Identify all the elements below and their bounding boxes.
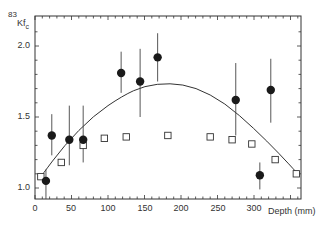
filled-circle-marker <box>42 177 50 185</box>
open-square-marker <box>123 134 129 140</box>
open-square-marker <box>58 159 64 165</box>
figure-number: 83 <box>8 11 17 19</box>
open-square-marker <box>293 171 299 177</box>
y-tick-label-2.0: 2.0 <box>6 41 30 50</box>
circle-markers <box>42 53 275 185</box>
open-square-marker <box>249 141 255 147</box>
open-square-marker <box>165 132 171 138</box>
x-tick-label-200: 200 <box>169 204 193 213</box>
fit-curve <box>41 84 298 177</box>
x-tick-label-300: 300 <box>242 204 266 213</box>
filled-circle-marker <box>256 171 264 179</box>
filled-circle-marker <box>153 53 161 61</box>
filled-circle-marker <box>117 69 125 77</box>
filled-circle-marker <box>65 136 73 144</box>
y-tick-label-1.5: 1.5 <box>6 112 30 121</box>
chart-plot <box>0 0 327 226</box>
x-tick-label-50: 50 <box>59 204 83 213</box>
open-square-marker <box>101 135 107 141</box>
open-square-marker <box>229 137 235 143</box>
x-tick-label-100: 100 <box>96 204 120 213</box>
x-tick-label-150: 150 <box>133 204 157 213</box>
x-axis-label: Depth (mm) <box>268 207 316 216</box>
x-tick-label-0: 0 <box>23 204 47 213</box>
y-axis-label: Kfc <box>17 19 29 30</box>
y-axis-label-sub: c <box>26 23 30 30</box>
filled-circle-marker <box>267 86 275 94</box>
open-square-marker <box>207 134 213 140</box>
open-square-marker <box>272 156 278 162</box>
filled-circle-marker <box>136 77 144 85</box>
y-tick-label-1.0: 1.0 <box>6 183 30 192</box>
y-axis-label-main: Kf <box>17 18 26 28</box>
filled-circle-marker <box>232 96 240 104</box>
x-tick-label-250: 250 <box>206 204 230 213</box>
filled-circle-marker <box>48 131 56 139</box>
filled-circle-marker <box>79 136 87 144</box>
